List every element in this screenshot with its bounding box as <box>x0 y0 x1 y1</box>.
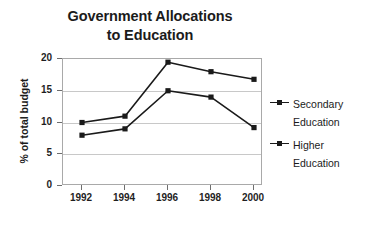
y-tick-label-5: 5 <box>28 148 52 158</box>
data-point-secondary-1996 <box>165 60 170 65</box>
legend-label-higher-education: Higher Education <box>293 139 340 169</box>
x-tick-label-1996: 1996 <box>144 193 190 203</box>
data-point-secondary-1998 <box>208 69 213 74</box>
data-point-secondary-1994 <box>122 114 127 119</box>
legend-item-higher-education: Higher Education <box>270 135 343 171</box>
data-point-higher-2000 <box>251 125 256 130</box>
chart-legend: Secondary Education Higher Education <box>270 94 343 176</box>
x-tick-label-1994: 1994 <box>101 193 147 203</box>
y-tick-label-0-wrap: 0 <box>28 180 52 190</box>
y-tick-label-15: 15 <box>28 85 52 95</box>
y-tick-label-15-wrap: 15 <box>28 85 52 95</box>
data-point-higher-1992 <box>79 133 84 138</box>
legend-item-secondary-education: Secondary Education <box>270 94 343 130</box>
chart-figure: Government Allocations to Education % of… <box>0 0 372 229</box>
y-tick-label-20-wrap: 20 <box>28 53 52 63</box>
x-tick-label-1998: 1998 <box>187 193 233 203</box>
x-tick-mark-1992 <box>81 185 82 190</box>
chart-title-line-2: to Education <box>30 26 270 45</box>
x-tick-label-1992: 1992 <box>58 193 104 203</box>
chart-title-line-1: Government Allocations <box>30 7 270 26</box>
data-point-higher-1994 <box>122 126 127 131</box>
x-tick-mark-2000 <box>253 185 254 190</box>
x-tick-mark-1998 <box>210 185 211 190</box>
x-tick-mark-1996 <box>167 185 168 190</box>
y-tick-label-5-10: 10 <box>28 117 52 127</box>
y-tick-mark-0 <box>57 185 62 186</box>
series-line-higher-education <box>82 91 254 135</box>
y-tick-label-0: 0 <box>28 180 52 190</box>
legend-marker-icon-higher <box>270 140 289 147</box>
data-point-secondary-1992 <box>79 120 84 125</box>
data-point-higher-1998 <box>208 95 213 100</box>
x-tick-label-2000: 2000 <box>230 193 276 203</box>
chart-title: Government Allocations to Education <box>30 7 270 45</box>
y-tick-label-10-wrap: 10 <box>28 117 52 127</box>
y-tick-label-5-wrap: 5 <box>28 148 52 158</box>
data-point-secondary-2000 <box>251 77 256 82</box>
legend-marker-icon-secondary <box>270 99 289 106</box>
y-tick-label-20: 20 <box>28 53 52 63</box>
legend-label-secondary-education: Secondary Education <box>293 98 343 128</box>
plot-area <box>62 58 262 185</box>
data-point-higher-1996 <box>165 88 170 93</box>
x-tick-mark-1994 <box>124 185 125 190</box>
series-plot <box>63 59 263 186</box>
